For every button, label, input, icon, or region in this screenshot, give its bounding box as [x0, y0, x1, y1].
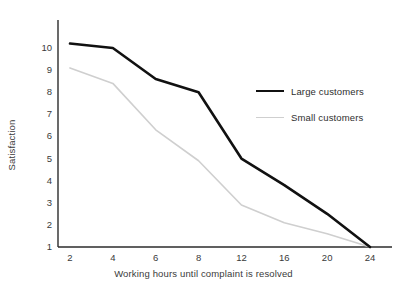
x-axis-title: Working hours until complaint is resolve… — [0, 268, 407, 279]
legend-item[interactable]: Large customers — [256, 80, 402, 102]
series-group — [70, 44, 370, 247]
x-axis-tick-labels: 246812162024 — [0, 252, 407, 266]
x-tick-label: 4 — [98, 252, 128, 264]
legend-swatch-icon — [256, 117, 284, 118]
x-tick-label: 8 — [184, 252, 214, 264]
x-tick-label: 6 — [141, 252, 171, 264]
x-tick-label: 24 — [355, 252, 385, 264]
line-chart: Satisfaction 10987654321 246812162024 Wo… — [0, 0, 407, 290]
x-tick-label: 2 — [55, 252, 85, 264]
x-tick-label: 20 — [312, 252, 342, 264]
plot-area — [0, 0, 407, 290]
legend-item[interactable]: Small customers — [256, 106, 402, 128]
chart-legend: Large customersSmall customers — [256, 80, 402, 132]
legend-label: Small customers — [291, 112, 363, 123]
x-tick-label: 16 — [269, 252, 299, 264]
x-tick-label: 12 — [226, 252, 256, 264]
legend-swatch-icon — [256, 90, 284, 92]
series-line — [70, 44, 370, 247]
legend-label: Large customers — [291, 86, 364, 97]
